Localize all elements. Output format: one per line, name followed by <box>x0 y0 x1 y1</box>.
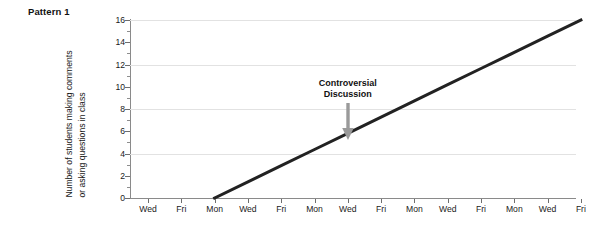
x-axis-tick <box>581 199 582 203</box>
y-axis-tick-label: 2 <box>109 172 125 181</box>
page-title: Pattern 1 <box>28 6 70 17</box>
x-axis-tick <box>281 199 282 203</box>
x-axis-tick <box>548 199 549 203</box>
y-axis-title: Number of students making comments or as… <box>62 20 102 198</box>
x-axis-tick-label: Wed <box>139 205 157 214</box>
y-axis-tick-label: 10 <box>109 83 125 92</box>
x-axis-tick <box>215 199 216 203</box>
x-axis-tick-label: Mon <box>506 205 523 214</box>
x-axis-tick <box>315 199 316 203</box>
x-axis-tick-label: Fri <box>576 205 586 214</box>
x-axis-tick <box>148 199 149 203</box>
chart-figure: Pattern 1 Number of students making comm… <box>0 0 601 229</box>
x-axis-tick-label: Wed <box>339 205 357 214</box>
x-axis-tick-label: Fri <box>476 205 486 214</box>
x-axis-tick <box>481 199 482 203</box>
x-axis-tick-label: Fri <box>176 205 186 214</box>
annotation-line-1: Controversial <box>283 78 413 89</box>
y-axis-tick-label: 4 <box>109 150 125 159</box>
x-axis-tick <box>248 199 249 203</box>
x-axis-tick <box>381 199 382 203</box>
annotation-label: Controversial Discussion <box>283 78 413 101</box>
x-axis-tick-label: Mon <box>406 205 423 214</box>
y-axis-tick-label: 6 <box>109 127 125 136</box>
x-axis-tick-label: Wed <box>439 205 457 214</box>
x-axis-tick <box>414 199 415 203</box>
y-axis-title-line-1: Number of students making comments <box>65 51 74 198</box>
y-axis-tick-label: 14 <box>109 38 125 47</box>
x-axis-tick-label: Mon <box>206 205 223 214</box>
annotation-line-2: Discussion <box>283 89 413 100</box>
x-axis-tick-label: Mon <box>306 205 323 214</box>
x-axis-ticks <box>130 199 576 203</box>
y-axis-title-line-2: or asking questions in class <box>78 93 87 198</box>
x-axis-tick <box>448 199 449 203</box>
x-axis-tick <box>514 199 515 203</box>
x-axis-tick <box>181 199 182 203</box>
arrow-down-icon <box>341 103 355 141</box>
y-axis-tick-label: 0 <box>109 194 125 203</box>
y-axis-tick-label: 8 <box>109 105 125 114</box>
y-axis-tick-label: 16 <box>109 16 125 25</box>
x-axis-tick <box>348 199 349 203</box>
x-axis-tick-label: Wed <box>539 205 557 214</box>
x-axis-tick-label: Wed <box>239 205 257 214</box>
x-axis-tick-label: Fri <box>276 205 286 214</box>
y-axis-tick-labels: 0246810121416 <box>107 20 125 198</box>
x-axis-tick-label: Fri <box>376 205 386 214</box>
x-axis-tick-labels: WedFriMonWedFriMonWedFriMonWedFriMonWedF… <box>130 205 576 219</box>
y-axis-tick-label: 12 <box>109 61 125 70</box>
